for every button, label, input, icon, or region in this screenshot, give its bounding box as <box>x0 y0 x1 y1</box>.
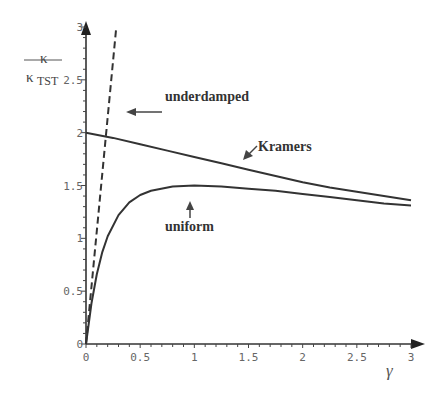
y-tick-label: 1.5 <box>63 180 83 193</box>
annotation-uniform: uniform <box>165 219 214 234</box>
annotation-underdamped: underdamped <box>165 89 249 104</box>
x-tick-label: 2.5 <box>347 351 367 364</box>
y-axis-label-denominator: κ <box>26 69 34 85</box>
series-kramers-line <box>86 133 411 201</box>
y-axis-label-numerator: κ <box>40 50 48 66</box>
axes <box>81 21 425 349</box>
y-tick-label: 3 <box>76 21 83 34</box>
x-tick-label: 0.5 <box>130 351 150 364</box>
x-tick-label: 1 <box>191 351 198 364</box>
x-axis-label: γ <box>386 361 394 380</box>
x-tick-label: 2 <box>299 351 306 364</box>
y-tick-label: 0 <box>76 338 83 351</box>
arrow-down-left-icon <box>243 146 257 160</box>
annotation-kramers: Kramers <box>258 139 312 154</box>
x-tick-label: 1.5 <box>239 351 259 364</box>
y-axis-label-subscript: TST <box>37 74 59 88</box>
y-tick-label: 1 <box>76 232 83 245</box>
y-tick-label: 2.5 <box>63 74 83 87</box>
x-tick-label: 0 <box>83 351 90 364</box>
series-uniform-line <box>86 186 411 345</box>
y-tick-label: 2 <box>76 127 83 140</box>
arrow-left-icon <box>126 108 162 116</box>
series-underdamped-line <box>86 27 116 344</box>
y-tick-label: 0.5 <box>63 285 83 298</box>
series <box>86 27 411 344</box>
x-axis-arrowhead <box>411 339 425 349</box>
arrow-up-icon <box>186 201 194 218</box>
chart: 00.511.522.5300.511.522.53 κ κ TST γ und… <box>0 0 446 403</box>
x-tick-label: 3 <box>408 351 415 364</box>
